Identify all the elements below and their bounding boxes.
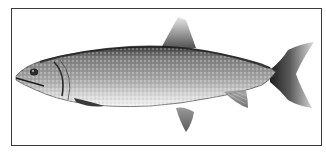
dorsal-fin: [160, 17, 196, 50]
fish-illustration: [0, 0, 326, 154]
fish-eye: [30, 68, 38, 75]
tail-fin: [270, 42, 314, 108]
pelvic-fin: [176, 108, 194, 133]
